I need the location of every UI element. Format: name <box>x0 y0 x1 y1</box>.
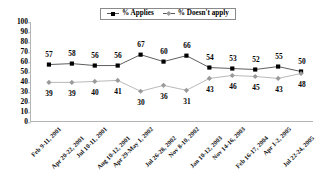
data-label: 39 <box>68 90 75 97</box>
data-label: 50 <box>298 58 305 65</box>
y-tick-0: 0 <box>24 118 28 125</box>
data-point-marker <box>93 63 97 67</box>
legend-item-doesnt-apply: % Doesn't apply <box>163 10 229 17</box>
data-label: 43 <box>206 86 213 93</box>
data-point-marker <box>139 53 143 57</box>
data-point-marker <box>276 64 280 68</box>
data-point-marker <box>184 54 188 58</box>
data-point-marker <box>253 74 258 79</box>
data-label: 48 <box>298 81 305 88</box>
data-point-marker <box>276 76 281 81</box>
series-line-0 <box>49 55 301 72</box>
y-tick-20: 20 <box>21 98 28 105</box>
chart-legend: % Applies % Doesn't apply <box>100 8 236 20</box>
data-label: 56 <box>114 52 121 59</box>
data-label: 56 <box>91 52 98 59</box>
series-lines <box>31 22 313 121</box>
data-point-marker <box>207 76 212 81</box>
plot-area: 1009080706050403020100 57585656676066545… <box>30 22 313 122</box>
data-label: 43 <box>275 86 282 93</box>
data-label: 57 <box>45 51 52 58</box>
y-tick-100: 100 <box>17 18 28 25</box>
y-tick-40: 40 <box>21 78 28 85</box>
line-chart: % Applies % Doesn't apply 10090807060504… <box>0 0 323 192</box>
data-label: 53 <box>229 55 236 62</box>
diamond-marker-icon <box>163 10 175 17</box>
data-label: 40 <box>91 89 98 96</box>
y-tick-60: 60 <box>21 58 28 65</box>
data-point-marker <box>253 67 257 71</box>
square-marker-icon <box>107 10 119 17</box>
data-point-marker <box>184 88 189 93</box>
data-point-marker <box>161 60 165 64</box>
y-tick-70: 70 <box>21 48 28 55</box>
data-point-marker <box>138 89 143 94</box>
data-point-marker <box>69 80 74 85</box>
y-tick-10: 10 <box>21 108 28 115</box>
y-tick-50: 50 <box>21 68 28 75</box>
data-label: 60 <box>160 48 167 55</box>
x-tick-label: Feb 9-11, 2001 <box>30 126 62 158</box>
data-label: 54 <box>206 54 213 61</box>
data-label: 31 <box>183 98 190 105</box>
data-label: 41 <box>114 88 121 95</box>
data-point-marker <box>70 62 74 66</box>
data-label: 45 <box>252 84 259 91</box>
legend-label-doesnt-apply: % Doesn't apply <box>178 10 229 17</box>
data-point-marker <box>115 78 120 83</box>
data-label: 46 <box>229 83 236 90</box>
data-point-marker <box>207 65 211 69</box>
data-label: 55 <box>275 53 282 60</box>
data-point-marker <box>92 79 97 84</box>
data-point-marker <box>230 73 235 78</box>
data-point-marker <box>46 80 51 85</box>
data-label: 66 <box>183 42 190 49</box>
y-tick-80: 80 <box>21 38 28 45</box>
data-label: 58 <box>68 50 75 57</box>
data-label: 36 <box>160 93 167 100</box>
y-tick-30: 30 <box>21 88 28 95</box>
data-label: 30 <box>137 99 144 106</box>
legend-item-applies: % Applies <box>107 10 154 17</box>
y-tick-90: 90 <box>21 28 28 35</box>
series-line-1 <box>49 73 301 91</box>
data-label: 52 <box>252 56 259 63</box>
legend-label-applies: % Applies <box>122 10 154 17</box>
data-point-marker <box>47 62 51 66</box>
x-axis-labels: Feb 9-11, 2001Apr 20-22, 2001Jul 10-11, … <box>30 124 313 190</box>
data-label: 39 <box>45 90 52 97</box>
data-point-marker <box>116 63 120 67</box>
data-point-marker <box>161 83 166 88</box>
data-label: 67 <box>137 41 144 48</box>
data-point-marker <box>230 66 234 70</box>
x-tick-label: Jul 22-24, 2005 <box>282 135 316 169</box>
